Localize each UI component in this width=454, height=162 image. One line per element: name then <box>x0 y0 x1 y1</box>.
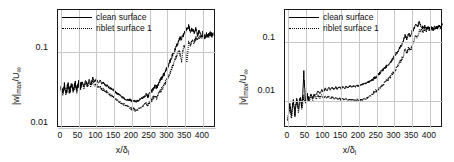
legend-left: clean surface riblet surface 1 <box>62 13 152 33</box>
legend-row-clean-left: clean surface <box>62 13 152 22</box>
x-axis-title-right: x/δi <box>227 146 454 157</box>
gridline-horizontal <box>58 52 216 53</box>
legend-label-riblet-right: riblet surface 1 <box>323 24 379 33</box>
legend-line-dotted-icon <box>62 25 92 33</box>
x-axis-title-left: x/δi <box>0 146 227 157</box>
y-tick-label-right-0: 0.1 <box>231 33 275 42</box>
gridline-vertical <box>167 10 168 128</box>
gridline-vertical <box>203 10 204 128</box>
legend-row-riblet-right: riblet surface 1 <box>289 24 379 33</box>
legend-label-clean-left: clean surface <box>96 13 147 22</box>
chart-panel-right: |v|max/U∞ 0.1 0.01 clean surface riblet … <box>227 0 454 162</box>
series-line-dotted <box>288 24 442 120</box>
legend-right: clean surface riblet surface 1 <box>289 13 379 33</box>
y-axis-title-left: |w|max/U∞ <box>12 67 23 105</box>
gridline-vertical <box>412 10 413 128</box>
legend-line-dotted-icon <box>289 25 319 33</box>
y-tick-label-left-1: 0.01 <box>4 118 48 127</box>
legend-label-riblet-left: riblet surface 1 <box>96 24 152 33</box>
legend-row-clean-right: clean surface <box>289 13 379 22</box>
gridline-vertical <box>394 10 395 128</box>
legend-line-solid-icon <box>289 14 319 22</box>
y-tick-label-left-0: 0.1 <box>4 43 48 52</box>
series-line-solid <box>288 21 442 121</box>
legend-row-riblet-left: riblet surface 1 <box>62 24 152 33</box>
series-line-solid <box>61 24 213 102</box>
gridline-horizontal <box>58 128 216 129</box>
legend-label-clean-right: clean surface <box>323 13 374 22</box>
gridline-horizontal <box>285 42 443 43</box>
chart-panel-left: |w|max/U∞ 0.1 0.01 clean surface riblet … <box>0 0 227 162</box>
y-tick-label-right-1: 0.01 <box>231 86 275 95</box>
legend-line-solid-icon <box>62 14 92 22</box>
gridline-vertical <box>430 10 431 128</box>
y-axis-title-text-left: |w|max/U∞ <box>11 67 21 105</box>
gridline-vertical <box>185 10 186 128</box>
series-line-dotted <box>61 32 213 111</box>
gridline-horizontal <box>285 101 443 102</box>
figure-root: |w|max/U∞ 0.1 0.01 clean surface riblet … <box>0 0 454 162</box>
x-tick-label: 400 <box>415 131 443 140</box>
x-tick-label: 400 <box>188 131 216 140</box>
